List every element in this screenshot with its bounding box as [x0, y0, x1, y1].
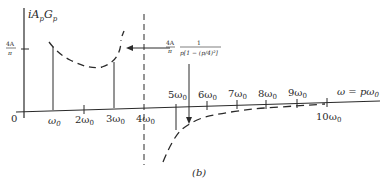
arrowhead-left-icon: [126, 45, 133, 51]
annotation-coef-num: 4A: [166, 39, 175, 46]
plot-svg: iApGp 4A π 0 4A π 1 p[1 − (p/4)²] ω0 2ω0…: [0, 0, 382, 183]
describing-function-plot: iApGp 4A π 0 4A π 1 p[1 − (p/4)²] ω0 2ω0…: [0, 0, 382, 183]
annotation-coef-den: π: [167, 47, 173, 54]
x-tick-label-7: 7ω0: [228, 88, 247, 101]
x-tick-label-5: 5ω0: [168, 89, 187, 102]
arrowhead-down-icon: [186, 117, 192, 124]
figure-caption: (b): [192, 167, 206, 178]
x-tick-label-10: 10ω0: [316, 111, 341, 124]
x-tick-label-6: 6ω0: [198, 89, 217, 102]
x-tick-label-3: 3ω0: [106, 113, 125, 126]
x-tick-label-4: 4ω0: [136, 113, 155, 126]
x-axis-label: ω = pω0: [337, 86, 379, 99]
y-tick-den: π: [7, 49, 13, 56]
x-tick-label-9: 9ω0: [288, 87, 307, 100]
origin-label: 0: [11, 113, 17, 124]
x-tick-label-8: 8ω0: [258, 88, 277, 101]
x-tick-label-1: ω0: [48, 115, 61, 128]
annotation-frac-den: p[1 − (p/4)²]: [180, 49, 219, 57]
y-tick-num: 4A: [6, 40, 15, 47]
curve-end-mark: [122, 31, 124, 36]
annotation-frac-num: 1: [197, 39, 201, 46]
x-tick-label-2: 2ω0: [75, 114, 94, 127]
curve-low-frequency: [49, 40, 121, 68]
y-axis-label: iApGp: [28, 8, 58, 23]
curve-high-frequency: [163, 104, 325, 162]
